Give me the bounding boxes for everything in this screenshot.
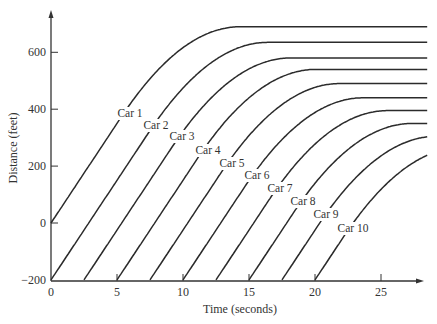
car-curve: [282, 137, 427, 280]
car-label: Car 7: [267, 182, 292, 194]
car-label: Car 8: [290, 195, 315, 207]
x-tick-label: 5: [114, 285, 120, 299]
car-label: Car 1: [117, 107, 142, 119]
x-tick-label: 25: [375, 285, 387, 299]
y-tick-label: 200: [28, 159, 46, 173]
y-tick-label: 0: [40, 216, 46, 230]
car-label: Car 10: [338, 222, 369, 234]
x-axis-arrow-icon: [416, 279, 424, 284]
car-label: Car 5: [219, 157, 244, 169]
car-labels: Car 1Car 2Car 3Car 4Car 5Car 6Car 7Car 8…: [114, 107, 369, 235]
y-ticks: −2000200400600: [21, 45, 58, 287]
y-tick-label: 600: [28, 45, 46, 59]
car-curves: [51, 27, 427, 280]
car-label: Car 4: [195, 144, 220, 156]
x-axis-title: Time (seconds): [203, 302, 277, 316]
y-axis-arrow-icon: [49, 10, 54, 18]
x-tick-label: 15: [243, 285, 255, 299]
car-distance-chart: 0510152025 −2000200400600 Car 1Car 2Car …: [0, 0, 437, 324]
car-label: Car 6: [244, 169, 269, 181]
car-label: Car 3: [169, 130, 194, 142]
car-label: Car 2: [143, 119, 168, 131]
x-tick-label: 10: [177, 285, 189, 299]
y-tick-label: −200: [21, 273, 46, 287]
car-label: Car 9: [313, 208, 338, 220]
x-tick-label: 20: [309, 285, 321, 299]
axes: [49, 10, 425, 284]
y-tick-label: 400: [28, 102, 46, 116]
y-axis-title: Distance (feet): [6, 113, 20, 184]
car-curve: [183, 98, 427, 280]
x-tick-label: 0: [48, 285, 54, 299]
